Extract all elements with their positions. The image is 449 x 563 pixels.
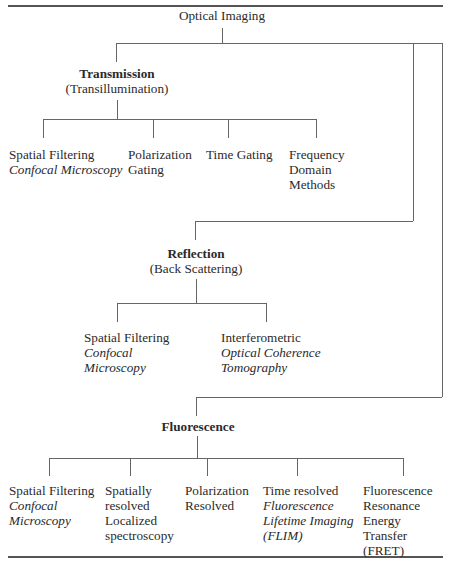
item-line: Spatially [105,483,174,498]
reflection-subtitle: (Back Scattering) [150,261,243,276]
item-line: Spatial Filtering [9,147,122,162]
reflection-child-spatial-filtering: Spatial Filtering Confocal Microscopy [84,330,169,375]
reflection-child-drop-1 [117,303,118,322]
transmission-child-time-gating: Time Gating [206,147,273,162]
item-line: Polarization [128,147,192,162]
transmission-connector [117,100,118,119]
fluorescence-node: Fluorescence [162,419,235,434]
fluorescence-title: Fluorescence [162,419,235,434]
transmission-child-drop-1 [43,119,44,138]
item-italic-line: Optical Coherence [221,345,321,360]
item-line: resolved [105,498,174,513]
transmission-title: Transmission [66,66,169,81]
transmission-child-polarization-gating: Polarization Gating [128,147,192,177]
reflection-child-interferometric: Interferometric Optical Coherence Tomogr… [221,330,321,375]
fluorescence-child-time-resolved-flim: Time resolved Fluorescence Lifetime Imag… [263,483,353,543]
item-italic-line: Confocal Microscopy [9,162,122,177]
fluorescence-child-polarization-resolved: Polarization Resolved [185,483,249,513]
fluorescence-child-spatially-resolved: Spatially resolved Localized spectroscop… [105,483,174,543]
item-line: Polarization [185,483,249,498]
item-line: (FRET) [363,543,433,558]
item-line: Time Gating [206,147,273,162]
item-line: Resonance [363,498,433,513]
fluorescence-branch-line [196,397,442,398]
item-line: Time resolved [263,483,353,498]
transmission-child-frequency-domain: Frequency Domain Methods [289,147,345,192]
item-italic-line: Fluorescence [263,498,353,513]
reflection-node: Reflection (Back Scattering) [150,246,243,276]
optical-imaging-tree-diagram: Optical Imaging Transmission (Transillum… [0,0,449,563]
root-node: Optical Imaging [179,8,265,23]
fluorescence-child-drop-2 [130,458,131,476]
fluorescence-child-spatial-filtering: Spatial Filtering Confocal Microscopy [9,483,94,528]
item-italic-line: Confocal [9,498,94,513]
item-line: Gating [128,162,192,177]
fluorescence-drop [442,43,443,397]
fluorescence-child-drop-5 [403,458,404,476]
item-line: Spatial Filtering [84,330,169,345]
reflection-child-drop-2 [266,303,267,322]
root-label: Optical Imaging [179,8,265,23]
item-italic-line: Confocal [84,345,169,360]
reflection-title: Reflection [150,246,243,261]
transmission-child-drop-4 [316,119,317,138]
transmission-node: Transmission (Transillumination) [66,66,169,96]
top-rule [8,5,443,7]
reflection-children-line [117,303,266,304]
item-line: Domain [289,162,345,177]
item-italic-line: Tomography [221,360,321,375]
item-italic-line: Microscopy [9,513,94,528]
root-branch-line [116,43,443,44]
item-line: Spatial Filtering [9,483,94,498]
reflection-drop [413,43,414,221]
fluorescence-child-drop-4 [297,458,298,476]
item-line: Localized [105,513,174,528]
transmission-subtitle: (Transillumination) [66,81,169,96]
item-line: Methods [289,177,345,192]
fluorescence-node-drop [196,397,197,416]
transmission-child-drop-2 [153,119,154,138]
transmission-child-drop-3 [228,119,229,138]
transmission-child-spatial-filtering: Spatial Filtering Confocal Microscopy [9,147,122,177]
item-line: Frequency [289,147,345,162]
item-italic-line: (FLIM) [263,528,353,543]
fluorescence-child-drop-3 [207,458,208,476]
fluorescence-children-line [49,458,403,459]
fluorescence-child-fret: Fluorescence Resonance Energy Transfer (… [363,483,433,558]
root-connector [222,28,223,43]
item-line: Transfer [363,528,433,543]
reflection-branch-line [195,221,413,222]
item-line: Energy [363,513,433,528]
fluorescence-child-drop-1 [49,458,50,476]
reflection-connector [196,279,197,303]
transmission-children-line [43,119,316,120]
reflection-node-drop [195,221,196,240]
item-line: Resolved [185,498,249,513]
item-line: Fluorescence [363,483,433,498]
fluorescence-connector [197,436,198,458]
transmission-drop [116,43,117,62]
item-line: spectroscopy [105,528,174,543]
item-italic-line: Lifetime Imaging [263,513,353,528]
item-italic-line: Microscopy [84,360,169,375]
item-line: Interferometric [221,330,321,345]
